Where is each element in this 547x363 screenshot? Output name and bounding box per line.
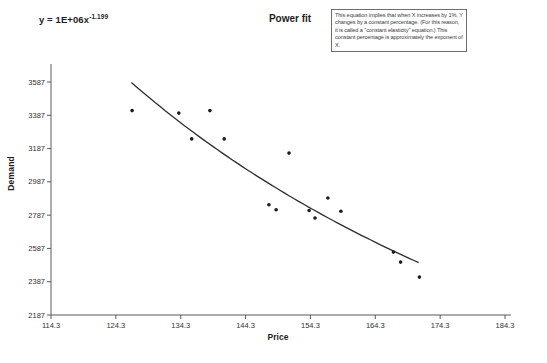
data-point <box>392 250 396 254</box>
x-tick-label: 134.3 <box>171 321 190 330</box>
y-tick-label: 3587 <box>28 78 45 87</box>
y-tick-label: 2987 <box>28 177 45 186</box>
x-tick-label: 184.3 <box>496 321 515 330</box>
y-tick-label: 3187 <box>28 144 45 153</box>
x-tick-label: 164.3 <box>366 321 385 330</box>
y-tick-label: 3387 <box>28 111 45 120</box>
trendline-curve <box>131 83 418 263</box>
y-tick-label: 2187 <box>28 311 45 320</box>
data-point <box>326 196 330 200</box>
x-tick-label: 124.3 <box>106 321 125 330</box>
x-tick-label: 114.3 <box>42 321 60 330</box>
data-point <box>399 260 403 264</box>
data-point <box>267 203 271 207</box>
x-tick-label: 144.3 <box>236 321 255 330</box>
data-point <box>177 111 181 115</box>
data-point <box>418 275 422 279</box>
y-tick-label: 2387 <box>28 277 45 286</box>
y-tick-label: 2587 <box>28 244 45 253</box>
data-point <box>339 210 343 214</box>
data-point <box>287 151 291 155</box>
data-point <box>307 209 311 213</box>
x-tick-label: 174.3 <box>431 321 450 330</box>
y-tick-label: 2787 <box>28 211 45 220</box>
plot-area: 21872387258727872987318733873587114.3124… <box>0 0 547 363</box>
x-tick-label: 154.3 <box>301 321 320 330</box>
data-point <box>274 208 278 212</box>
data-point <box>222 137 226 141</box>
data-point <box>130 109 134 113</box>
data-point <box>190 137 194 141</box>
data-point <box>313 216 317 220</box>
data-point <box>208 109 212 113</box>
